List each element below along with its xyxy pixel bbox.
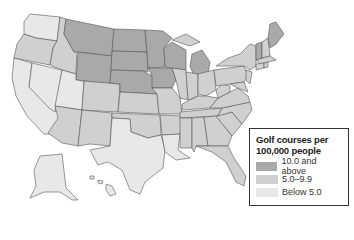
state-wy <box>76 52 112 84</box>
legend-swatch-mid <box>256 175 278 184</box>
state-ct <box>256 63 264 70</box>
state-ny <box>216 44 256 70</box>
state-nj <box>246 70 252 84</box>
legend-title-line2: 100,000 people <box>256 145 342 156</box>
state-ks <box>118 92 159 114</box>
state-ia <box>148 68 176 88</box>
state-ar <box>160 115 182 135</box>
legend: Golf courses per 100,000 people 10.0 and… <box>249 128 349 206</box>
state-hi <box>90 176 116 196</box>
state-me <box>268 22 284 48</box>
state-wi <box>164 42 186 70</box>
legend-title-line1: Golf courses per <box>256 134 342 145</box>
legend-swatch-low <box>256 188 278 197</box>
legend-label-mid: 5.0–9.9 <box>282 174 312 184</box>
legend-title: Golf courses per 100,000 people <box>256 134 342 156</box>
state-sd <box>111 51 148 72</box>
legend-label-high: 10.0 and above <box>281 156 342 176</box>
state-nd <box>112 29 147 52</box>
state-oh <box>198 70 216 96</box>
state-ms <box>180 118 192 148</box>
state-fl <box>196 146 246 186</box>
legend-label-low: Below 5.0 <box>282 187 322 197</box>
legend-item-low: Below 5.0 <box>256 186 342 198</box>
legend-item-high: 10.0 and above <box>256 160 342 172</box>
state-ak <box>30 154 78 200</box>
state-in <box>186 72 198 100</box>
state-vt <box>256 42 262 60</box>
state-co <box>82 81 120 112</box>
legend-swatch-high <box>256 162 277 171</box>
state-ri <box>264 62 268 68</box>
state-nm <box>78 110 112 146</box>
